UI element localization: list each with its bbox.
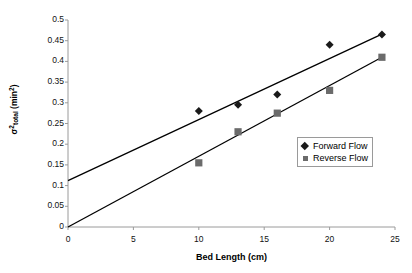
x-tick-label: 5 bbox=[118, 234, 148, 244]
legend-item-reverse-flow: Reverse Flow bbox=[301, 152, 368, 164]
y-axis-title-unit-open: (min bbox=[9, 91, 19, 111]
y-tick-label: 0.5 bbox=[30, 15, 64, 24]
y-axis-title-sigma-sub: total bbox=[12, 111, 19, 125]
y-tick-label: 0.05 bbox=[30, 201, 64, 210]
y-tick-label: 0.1 bbox=[30, 181, 64, 190]
y-tick-label: 0.2 bbox=[30, 139, 64, 148]
y-axis-title-unit-exp: 2 bbox=[8, 87, 15, 91]
y-tick-label: 0.25 bbox=[30, 119, 64, 128]
y-axis-title-sigma: σ bbox=[9, 129, 19, 135]
y-tick-label: 0 bbox=[30, 222, 64, 231]
diamond-marker-icon bbox=[301, 142, 310, 151]
y-tick-label: 0.4 bbox=[30, 56, 64, 65]
x-tick-label: 0 bbox=[53, 234, 83, 244]
legend-label-reverse-flow: Reverse Flow bbox=[313, 153, 368, 163]
x-tick-label: 25 bbox=[380, 234, 410, 244]
y-tick-label: 0.35 bbox=[30, 77, 64, 86]
y-tick-label: 0.15 bbox=[30, 160, 64, 169]
y-tick-label: 0.45 bbox=[30, 36, 64, 45]
chart-container: 00.050.10.150.20.250.30.350.40.450.5 051… bbox=[0, 0, 412, 273]
square-marker-icon bbox=[301, 154, 310, 163]
x-tick-label: 15 bbox=[249, 234, 279, 244]
x-axis-title: Bed Length (cm) bbox=[68, 252, 395, 262]
legend-item-forward-flow: Forward Flow bbox=[301, 140, 368, 152]
y-axis-title-unit-close: ) bbox=[9, 85, 19, 88]
legend: Forward Flow Reverse Flow bbox=[297, 137, 373, 167]
legend-label-forward-flow: Forward Flow bbox=[313, 141, 368, 151]
x-tick-label: 20 bbox=[315, 234, 345, 244]
x-tick-label: 10 bbox=[184, 234, 214, 244]
y-axis-title: σ2total (min2) bbox=[8, 50, 19, 170]
y-axis-tick-labels: 00.050.10.150.20.250.30.350.40.450.5 bbox=[26, 0, 64, 273]
y-axis-title-sigma-exp: 2 bbox=[8, 125, 15, 129]
trend-lines bbox=[68, 34, 382, 227]
y-tick-label: 0.3 bbox=[30, 98, 64, 107]
